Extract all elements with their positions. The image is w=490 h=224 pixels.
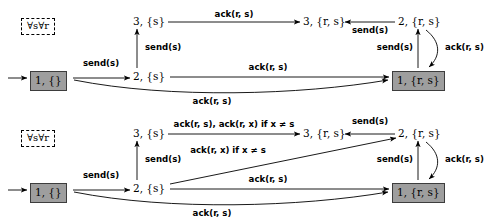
edge-label-ack-2s-2rs-bottom: ack(r, x) if x ≠ s [189,145,267,155]
edge-label-ack-2s-1rs-bottom: ack(r, s) [248,174,289,184]
edge-init-to-1rs [74,80,388,93]
node-label: 1, {r, s} [397,74,440,86]
edge-label-send-2s-3s-top: send(s) [144,42,182,52]
edge-label-send-init-2s-bottom: send(s) [82,170,120,180]
node-label: 1, {r, s} [397,186,440,198]
quantifier-label: ∀s∀r [27,132,49,143]
edge-label-ack-2rs-1rs-top: ack(r, s) [444,42,485,52]
node-label: 2, {r, s} [398,127,441,139]
node-label: 1, {} [35,186,62,198]
node-2-s-bottom[interactable]: 2, {s} [133,183,165,194]
edge-label-ack-2rs-1rs-bottom: ack(r, s) [444,154,485,164]
node-2-s-top[interactable]: 2, {s} [133,71,165,82]
node-label: 3, {r, s} [303,127,346,139]
node-1-rs-top[interactable]: 1, {r, s} [392,71,445,91]
node-label: 3, {s} [133,15,165,27]
edge-label-ack-init-1rs-top: ack(r, s) [192,96,233,106]
edge-2rs-to-1rs [426,30,438,67]
diagram-panel-top: ∀s∀r 1, {} 2, {s} 3, {s} 3, {r, s} 2, {r… [0,0,490,112]
edge-init-to-1rs [74,192,388,205]
node-2-rs-top[interactable]: 2, {r, s} [398,16,441,27]
node-label: 2, {s} [133,70,165,82]
node-3-rs-bottom[interactable]: 3, {r, s} [303,128,346,139]
node-3-s-bottom[interactable]: 3, {s} [133,128,165,139]
quantifier-box-top: ∀s∀r [21,18,55,35]
edge-label-ack-2s-1rs-top: ack(r, s) [248,62,289,72]
edge-label-send-1rs-2rs-top: send(s) [376,42,414,52]
edge-label-send-2rs-3rs-top: send(s) [351,25,389,35]
node-label: 3, {r, s} [303,15,346,27]
edge-label-send-1rs-2rs-bottom: send(s) [376,154,414,164]
edge-2rs-to-1rs [426,142,438,179]
quantifier-label: ∀s∀r [27,20,49,31]
node-2-rs-bottom[interactable]: 2, {r, s} [398,128,441,139]
node-label: 2, {s} [133,182,165,194]
node-3-s-top[interactable]: 3, {s} [133,16,165,27]
node-label: 2, {r, s} [398,15,441,27]
figure-canvas: ∀s∀r 1, {} 2, {s} 3, {s} 3, {r, s} 2, {r… [0,0,490,224]
edge-label-ack-3s-3rs-top: ack(r, s) [214,9,255,19]
node-1-empty-top[interactable]: 1, {} [30,71,67,91]
node-1-rs-bottom[interactable]: 1, {r, s} [392,183,445,203]
edge-label-ack-init-1rs-bottom: ack(r, s) [192,208,233,218]
edge-label-send-2rs-3rs-bottom: send(s) [351,116,389,126]
diagram-panel-bottom: ∀s∀r 1, {} 2, {s} 3, {s} 3, {r, s} 2, {r… [0,112,490,224]
edge-label-ack-3s-3rs-bottom: ack(r, s), ack(r, x) if x ≠ s [173,119,296,129]
node-3-rs-top[interactable]: 3, {r, s} [303,16,346,27]
quantifier-box-bottom: ∀s∀r [21,130,55,147]
node-label: 3, {s} [133,127,165,139]
edge-label-send-init-2s-top: send(s) [82,58,120,68]
node-1-empty-bottom[interactable]: 1, {} [30,183,67,203]
edge-label-send-2s-3s-bottom: send(s) [144,154,182,164]
node-label: 1, {} [35,74,62,86]
